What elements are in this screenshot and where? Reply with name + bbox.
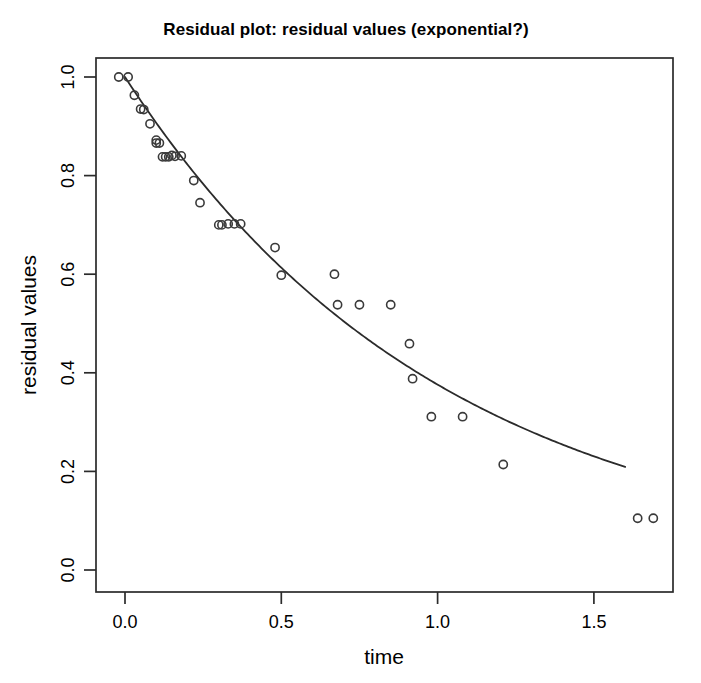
data-point xyxy=(408,375,416,383)
data-point xyxy=(146,120,154,128)
y-tick-label: 0.0 xyxy=(58,557,78,582)
data-point xyxy=(355,301,363,309)
data-point xyxy=(196,199,204,207)
x-tick-label: 1.0 xyxy=(425,612,450,632)
y-tick-label: 0.2 xyxy=(58,459,78,484)
data-point xyxy=(271,243,279,251)
y-axis-title: residual values xyxy=(17,255,40,395)
page-title: Residual plot: residual values (exponent… xyxy=(163,20,528,39)
x-tick-label: 0.5 xyxy=(269,612,294,632)
exponential-fit-curve xyxy=(125,77,625,467)
x-axis-title: time xyxy=(364,645,404,668)
x-tick-label: 1.5 xyxy=(581,612,606,632)
y-tick-label: 0.8 xyxy=(58,163,78,188)
plot-frame-box xyxy=(96,58,673,592)
data-point xyxy=(190,176,198,184)
y-axis-ticks: 0.00.20.40.60.81.0 xyxy=(58,64,96,582)
y-tick-label: 1.0 xyxy=(58,64,78,89)
data-point xyxy=(405,340,413,348)
data-point xyxy=(333,301,341,309)
data-point xyxy=(387,301,395,309)
data-point xyxy=(277,271,285,279)
data-point xyxy=(330,270,338,278)
data-point xyxy=(115,73,123,81)
data-point xyxy=(459,413,467,421)
x-axis-ticks: 0.00.51.01.5 xyxy=(112,592,606,632)
chart-canvas: Residual plot: residual values (exponent… xyxy=(0,0,701,683)
residual-plot-figure: Residual plot: residual values (exponent… xyxy=(0,0,701,683)
data-point xyxy=(634,514,642,522)
y-tick-label: 0.4 xyxy=(58,360,78,385)
y-tick-label: 0.6 xyxy=(58,262,78,287)
data-point xyxy=(499,460,507,468)
data-point xyxy=(427,413,435,421)
scatter-points xyxy=(115,73,658,522)
data-point xyxy=(649,514,657,522)
x-tick-label: 0.0 xyxy=(112,612,137,632)
